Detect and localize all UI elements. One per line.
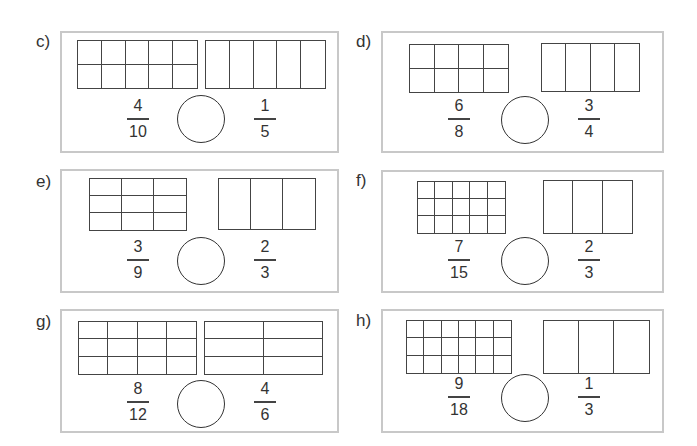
numerator: 1 [245,97,285,115]
problem-label: f) [356,172,366,189]
grid-cell [488,182,505,199]
numerator: 3 [569,97,609,115]
fraction-bar [127,401,149,403]
fraction-bar [578,259,600,261]
grid-cell [79,357,108,374]
grid-cell [283,179,315,229]
grid-cell [453,199,470,216]
grid-cell [138,339,167,356]
fraction-bar [448,396,470,398]
grid-cell [149,65,173,89]
grid-cell [435,69,460,93]
fraction-bar [127,259,149,261]
comparison-answer-circle[interactable] [177,95,225,143]
grid-cell [173,65,197,89]
left-fraction: 68 [439,97,479,141]
numerator: 4 [118,97,158,115]
problem-label: d) [356,33,371,50]
grid-cell [614,321,649,373]
grid-cell [407,321,424,338]
grid-cell [418,216,435,233]
grid-cell [102,65,126,89]
right-fraction: 34 [569,97,609,141]
problem-label: h) [356,312,371,329]
left-fraction-model [78,321,197,375]
grid-cell [138,322,167,339]
grid-cell [410,45,435,69]
left-fraction-model [406,320,512,374]
right-fraction-model [204,321,323,375]
denominator: 10 [118,123,158,141]
grid-cell [79,322,108,339]
left-fraction: 918 [439,375,479,419]
left-fraction: 39 [118,238,158,282]
grid-cell [615,44,639,91]
fraction-bar [254,401,276,403]
grid-cell [579,321,614,373]
numerator: 8 [118,380,158,398]
denominator: 3 [569,264,609,282]
grid-cell [90,179,122,196]
grid-cell [407,356,424,373]
grid-cell [205,322,264,339]
problem-label: g) [36,313,51,330]
grid-cell [544,321,579,373]
grid-cell [470,216,487,233]
grid-cell [410,69,435,93]
grid-cell [484,69,509,93]
comparison-answer-circle[interactable] [177,380,225,428]
numerator: 1 [569,375,609,393]
comparison-answer-circle[interactable] [501,96,549,144]
denominator: 9 [118,264,158,282]
grid-cell [264,322,323,339]
grid-cell [126,65,150,89]
numerator: 3 [118,238,158,256]
grid-cell [167,339,196,356]
grid-cell [154,213,186,230]
grid-cell [205,339,264,356]
grid-cell [442,321,459,338]
fraction-bar [127,118,149,120]
right-fraction: 23 [245,238,285,282]
grid-cell [173,41,197,65]
grid-cell [122,179,154,196]
grid-cell [494,338,511,355]
grid-cell [102,41,126,65]
grid-cell [442,338,459,355]
grid-cell [459,45,484,69]
grid-cell [494,321,511,338]
grid-cell [108,322,137,339]
grid-cell [149,41,173,65]
left-fraction-model [89,178,187,231]
left-fraction: 410 [118,97,158,141]
comparison-answer-circle[interactable] [501,237,549,285]
grid-cell [442,356,459,373]
comparison-answer-circle[interactable] [177,237,225,285]
grid-cell [424,356,441,373]
grid-cell [544,181,573,233]
grid-cell [435,216,452,233]
right-fraction: 23 [569,238,609,282]
right-fraction-model [205,40,326,89]
grid-cell [167,357,196,374]
grid-cell [108,339,137,356]
grid-cell [470,182,487,199]
right-fraction: 15 [245,97,285,141]
grid-cell [264,357,323,374]
grid-cell [488,216,505,233]
fraction-bar [254,118,276,120]
grid-cell [154,196,186,213]
grid-cell [219,179,251,229]
grid-cell [424,321,441,338]
grid-cell [459,321,476,338]
grid-cell [251,179,283,229]
fraction-bar [578,118,600,120]
denominator: 8 [439,123,479,141]
denominator: 12 [118,406,158,424]
grid-cell [459,338,476,355]
comparison-answer-circle[interactable] [501,374,549,422]
left-fraction: 812 [118,380,158,424]
grid-cell [459,69,484,93]
numerator: 4 [245,380,285,398]
numerator: 2 [569,238,609,256]
